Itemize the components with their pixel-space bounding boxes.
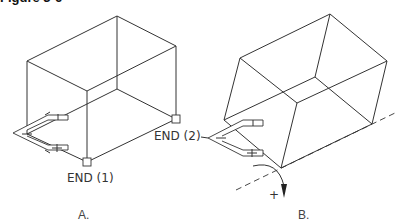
rotation-sign: +	[269, 188, 279, 202]
end-1-label: END (1)	[67, 171, 114, 185]
end-2-label: END (2)	[154, 129, 201, 143]
panel-a-label: A.	[78, 208, 89, 222]
panel-b-box	[224, 14, 387, 168]
diagram-canvas: END (1) END (2) + A. B.	[0, 0, 410, 224]
ucs-icon-a	[13, 112, 68, 153]
rotation-arrow-icon	[253, 165, 284, 186]
ucs-icon-b	[208, 120, 263, 157]
panel-b-label: B.	[298, 208, 309, 222]
arrow-head-icon	[281, 184, 287, 198]
end-snap-marker-1	[83, 158, 91, 166]
end-snap-marker-2	[172, 115, 180, 123]
